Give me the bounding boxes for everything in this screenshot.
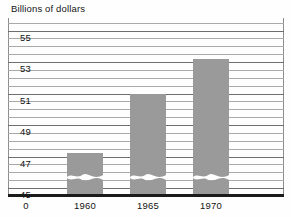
plot-area: 555351494745 (8, 18, 284, 196)
y-tick-label: 55 (20, 33, 31, 43)
x-axis-line (8, 194, 284, 197)
y-tick-label: 47 (20, 159, 31, 169)
bar-1960 (67, 153, 103, 170)
bar-chart-figure: Billions of dollars 555351494745 0196019… (0, 0, 291, 217)
gridline (8, 46, 284, 47)
gridline (8, 70, 284, 71)
bar-1970 (193, 59, 229, 170)
gridline (8, 62, 284, 63)
gridline (8, 78, 284, 79)
gridline (8, 23, 284, 24)
x-tick-label: 1965 (137, 200, 159, 211)
y-tick-label: 53 (20, 64, 31, 74)
gridline (8, 31, 284, 32)
gridline (8, 38, 284, 39)
x-tick-label: 1970 (200, 200, 222, 211)
y-tick-label: 51 (20, 96, 31, 106)
bar-axis-break-1965 (130, 170, 166, 186)
chart-title: Billions of dollars (11, 3, 85, 14)
gridline (8, 54, 284, 55)
y-tick-label: 49 (20, 127, 31, 137)
bar-axis-break-1970 (193, 170, 229, 186)
x-tick-label: 0 (23, 200, 28, 211)
x-tick-label: 1960 (74, 200, 96, 211)
bar-axis-break-1960 (67, 170, 103, 186)
bar-1965 (130, 94, 166, 170)
gridline (8, 86, 284, 87)
